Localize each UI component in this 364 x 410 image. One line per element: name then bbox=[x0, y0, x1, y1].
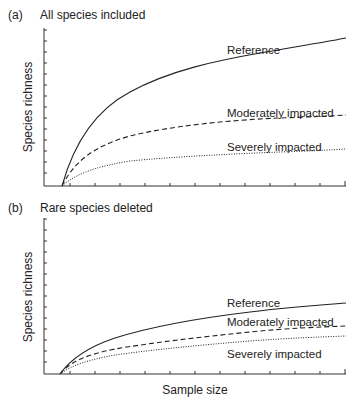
panel-b-reference-line bbox=[60, 303, 346, 374]
panel-b-letter: (b) bbox=[8, 201, 23, 215]
panel-b-moderate-label: Moderately impacted bbox=[227, 316, 334, 328]
panel-a-letter: (a) bbox=[8, 8, 23, 22]
panel-b-x-axis-label: Sample size bbox=[162, 383, 228, 397]
panel-a-severe-line bbox=[62, 149, 346, 186]
panel-b-reference-label: Reference bbox=[227, 297, 280, 309]
panel-b-y-axis-label: Species richness bbox=[21, 252, 35, 343]
panel-a: (a) All species included Species richnes… bbox=[8, 8, 346, 186]
panel-b-curves bbox=[60, 303, 346, 374]
panel-b-severe-label: Severely impacted bbox=[227, 348, 322, 360]
figure: (a) All species included Species richnes… bbox=[0, 0, 364, 410]
panel-b: (b) Rare species deleted Species richnes… bbox=[8, 201, 346, 397]
panel-b-title: Rare species deleted bbox=[40, 201, 153, 215]
panel-a-severe-label: Severely impacted bbox=[227, 141, 322, 153]
panel-a-moderate-label: Moderately impacted bbox=[227, 107, 334, 119]
panel-a-y-axis-label: Species richness bbox=[21, 62, 35, 153]
panel-a-reference-label: Reference bbox=[227, 44, 280, 56]
panel-a-title: All species included bbox=[40, 8, 145, 22]
